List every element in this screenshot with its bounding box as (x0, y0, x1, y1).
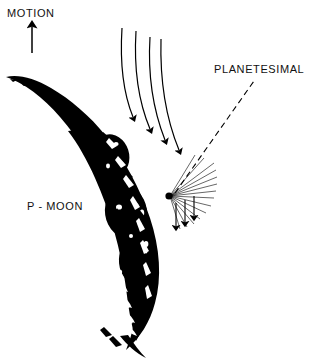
p-moon-crater-2 (116, 204, 122, 209)
p-moon-label: P - MOON (27, 201, 83, 212)
p-moon-crater-4 (129, 234, 133, 238)
planetesimal-label: PLANETESIMAL (214, 64, 304, 75)
impact-diagram-svg (0, 0, 312, 361)
motion-label: MOTION (7, 8, 55, 19)
p-moon-crater-5 (106, 164, 110, 169)
figure-background (0, 0, 312, 361)
figure-caption-strip (0, 352, 312, 361)
impact-point-dot (165, 192, 172, 199)
figure-root: MOTION PLANETESIMAL P - MOON (0, 0, 312, 361)
